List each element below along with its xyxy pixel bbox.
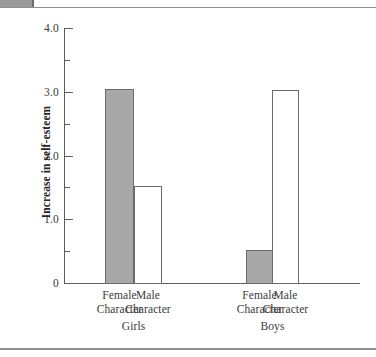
y-tick-major	[65, 156, 73, 157]
bar-boys-male	[272, 90, 299, 284]
y-tick-minor	[65, 60, 70, 61]
category-label-line1: Male	[273, 289, 297, 301]
y-tick-label: 4.0	[44, 22, 64, 34]
y-tick-major	[65, 28, 73, 29]
y-tick-label: 0	[53, 277, 64, 289]
bar-chart-plot: 4.03.02.01.00 Increase in self-esteem Fe…	[0, 0, 376, 357]
group-label-boys: Boys	[213, 320, 333, 332]
y-tick-major	[65, 219, 73, 220]
y-tick-major	[65, 92, 73, 93]
y-tick-minor	[65, 124, 70, 125]
bar-girls-female	[105, 89, 134, 284]
y-tick-minor	[65, 187, 70, 188]
group-label-girls: Girls	[74, 320, 194, 332]
category-label-line2: Character	[243, 302, 329, 316]
category-label-line2: Character	[105, 302, 191, 316]
bar-boys-female	[246, 250, 273, 284]
category-label-line1: Male	[136, 289, 160, 301]
category-label: MaleCharacter	[105, 288, 191, 316]
y-axis-title: Increase in self-esteem	[40, 52, 52, 272]
category-label: MaleCharacter	[243, 288, 329, 316]
bar-girls-male	[134, 186, 162, 284]
y-tick-minor	[65, 251, 70, 252]
figure-container: 4.03.02.01.00 Increase in self-esteem Fe…	[0, 0, 376, 357]
y-tick-major	[65, 283, 73, 284]
